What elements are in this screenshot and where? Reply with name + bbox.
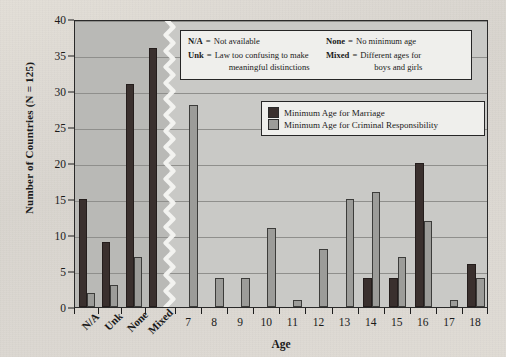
x-tick-mark bbox=[436, 308, 437, 314]
x-tick-label: 13 bbox=[339, 316, 351, 328]
bar-marriage bbox=[126, 84, 134, 307]
abbrev-mixed-definition: Different ages for bbox=[360, 50, 421, 60]
bar-criminal-responsibility bbox=[215, 278, 224, 307]
abbrev-na: N/A = Not available bbox=[188, 36, 326, 47]
bar-criminal-responsibility bbox=[319, 249, 328, 307]
x-tick-mark bbox=[384, 308, 385, 314]
plot-area: N/A = Not available None = No minimum ag… bbox=[74, 20, 488, 308]
bar-criminal-responsibility bbox=[87, 293, 95, 307]
x-tick-label: 17 bbox=[443, 316, 455, 328]
x-tick-mark bbox=[121, 308, 122, 314]
x-tick-label: Mixed bbox=[146, 306, 176, 336]
abbrev-unk-definition-line2: meaningful distinctions bbox=[215, 62, 310, 73]
bar-criminal-responsibility bbox=[110, 285, 118, 307]
x-tick-label: 15 bbox=[391, 316, 403, 328]
legend-swatch-marriage-icon bbox=[268, 107, 279, 118]
abbrev-mixed-eq: = bbox=[352, 50, 360, 73]
bar-criminal-responsibility bbox=[398, 257, 407, 307]
x-tick-label: 11 bbox=[287, 316, 298, 328]
x-tick-mark bbox=[175, 308, 176, 314]
x-tick-mark bbox=[201, 308, 202, 314]
y-tick-label: 40 bbox=[55, 14, 67, 26]
chart-figure: Number of Countries (N = 125) 0510152025… bbox=[0, 0, 506, 357]
abbrev-unk-key: Unk bbox=[188, 50, 207, 73]
legend-label-marriage: Minimum Age for Marriage bbox=[284, 108, 385, 118]
bar-criminal-responsibility bbox=[424, 221, 433, 307]
x-tick-mark bbox=[332, 308, 333, 314]
bar-marriage bbox=[415, 163, 424, 307]
bar-criminal-responsibility bbox=[241, 278, 250, 307]
y-tick-label: 10 bbox=[55, 230, 67, 242]
x-tick-mark bbox=[253, 308, 254, 314]
y-axis-title: Number of Countries (N = 125) bbox=[23, 13, 35, 263]
abbrev-na-definition: Not available bbox=[214, 36, 260, 46]
bar-criminal-responsibility bbox=[476, 278, 485, 307]
x-axis-title: Age bbox=[74, 338, 488, 350]
y-tick-label: 15 bbox=[55, 194, 67, 206]
y-tick-label: 30 bbox=[55, 86, 67, 98]
x-axis: N/AUnkNoneMixed789101112131415161718 Age bbox=[74, 308, 488, 357]
x-tick-mark bbox=[74, 308, 75, 314]
bar-marriage bbox=[363, 278, 372, 307]
bar-marriage bbox=[149, 48, 157, 307]
legend-label-criminal-responsibility: Minimum Age for Criminal Responsibility bbox=[284, 120, 438, 130]
y-tick-label: 0 bbox=[60, 302, 66, 314]
x-tick-mark bbox=[462, 308, 463, 314]
abbrev-mixed-key: Mixed bbox=[326, 50, 352, 73]
bar-criminal-responsibility bbox=[267, 228, 276, 307]
x-tick-mark bbox=[487, 308, 488, 314]
y-tick-label: 5 bbox=[60, 266, 66, 278]
abbrev-mixed: Mixed = Different ages for boys and girl… bbox=[326, 50, 464, 73]
x-tick-mark bbox=[98, 308, 99, 314]
x-tick-mark bbox=[305, 308, 306, 314]
abbrev-none-definition: No minimum age bbox=[356, 36, 416, 46]
bar-criminal-responsibility bbox=[346, 199, 355, 307]
y-tick-label: 20 bbox=[55, 158, 67, 170]
x-tick-label: 14 bbox=[365, 316, 377, 328]
abbrev-unk: Unk = Law too confusing to make meaningf… bbox=[188, 50, 326, 73]
abbrev-na-eq: = bbox=[206, 36, 214, 47]
x-tick-mark bbox=[410, 308, 411, 314]
y-tick-label: 35 bbox=[55, 50, 67, 62]
bar-marriage bbox=[389, 278, 398, 307]
x-tick-mark bbox=[145, 308, 146, 314]
x-tick-label: 9 bbox=[237, 316, 243, 328]
abbrev-mixed-definition-line2: boys and girls bbox=[360, 62, 422, 73]
bar-criminal-responsibility bbox=[450, 300, 459, 307]
bar-marriage bbox=[102, 242, 110, 307]
abbrev-unk-definition: Law too confusing to make bbox=[215, 50, 309, 60]
bar-criminal-responsibility bbox=[189, 105, 198, 307]
legend-swatch-criminal-responsibility-icon bbox=[268, 119, 279, 130]
bar-criminal-responsibility bbox=[372, 192, 381, 307]
x-tick-label: 10 bbox=[261, 316, 273, 328]
bar-criminal-responsibility bbox=[134, 257, 142, 307]
x-tick-label: 12 bbox=[313, 316, 325, 328]
x-tick-label: 18 bbox=[469, 316, 481, 328]
bar-marriage bbox=[79, 199, 87, 307]
legend-item-criminal-responsibility: Minimum Age for Criminal Responsibility bbox=[268, 119, 478, 130]
x-tick-label: 8 bbox=[211, 316, 217, 328]
x-tick-label: None bbox=[124, 308, 150, 334]
x-tick-label: 7 bbox=[185, 316, 191, 328]
y-axis: Number of Countries (N = 125) 0510152025… bbox=[0, 20, 74, 308]
x-tick-mark bbox=[227, 308, 228, 314]
legend-item-marriage: Minimum Age for Marriage bbox=[268, 107, 478, 118]
bar-criminal-responsibility bbox=[293, 300, 302, 307]
abbrev-na-key: N/A bbox=[188, 36, 206, 47]
y-tick-label: 25 bbox=[55, 122, 67, 134]
abbreviation-note-box: N/A = Not available None = No minimum ag… bbox=[180, 30, 472, 80]
x-tick-mark bbox=[279, 308, 280, 314]
bar-marriage bbox=[467, 264, 476, 307]
series-legend: Minimum Age for Marriage Minimum Age for… bbox=[261, 101, 485, 136]
abbrev-none: None = No minimum age bbox=[326, 36, 464, 47]
abbrev-unk-eq: = bbox=[207, 50, 215, 73]
abbrev-none-key: None bbox=[326, 36, 348, 47]
x-tick-label: 16 bbox=[417, 316, 429, 328]
x-tick-mark bbox=[358, 308, 359, 314]
abbrev-none-eq: = bbox=[348, 36, 356, 47]
